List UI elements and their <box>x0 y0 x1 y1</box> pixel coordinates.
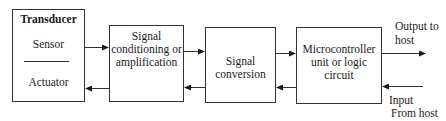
connection-arrows <box>0 0 446 121</box>
